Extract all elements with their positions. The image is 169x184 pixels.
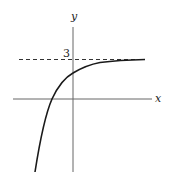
function-curve xyxy=(35,60,145,173)
asymptote-label: 3 xyxy=(63,47,70,60)
x-axis-label: x xyxy=(155,92,162,105)
graph-canvas: y x 3 xyxy=(0,0,169,184)
y-axis-label: y xyxy=(70,10,78,23)
